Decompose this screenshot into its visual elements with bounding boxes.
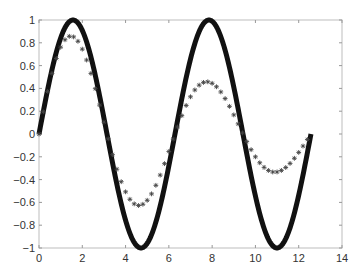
star-marker <box>197 83 202 88</box>
line-chart: 02468101214 −1−0.8−0.6−0.4−0.200.20.40.6… <box>0 0 361 274</box>
plot-area <box>37 20 311 248</box>
star-marker <box>58 45 63 50</box>
star-marker <box>283 165 288 170</box>
star-marker <box>184 103 189 108</box>
star-marker <box>179 113 184 118</box>
star-marker <box>262 165 267 170</box>
star-marker <box>253 154 258 159</box>
y-tick-label: 0.4 <box>20 82 35 94</box>
star-marker <box>45 89 50 94</box>
y-tick-label: −0.2 <box>13 151 35 163</box>
star-marker <box>257 160 262 165</box>
star-marker <box>80 47 85 52</box>
star-marker <box>37 132 42 137</box>
star-marker <box>270 170 275 175</box>
x-tick-label: 0 <box>36 252 42 264</box>
star-marker <box>145 198 150 203</box>
x-tick-label: 8 <box>209 252 215 264</box>
y-tick-label: 0.2 <box>20 105 35 117</box>
star-marker <box>110 152 115 157</box>
x-tick-label: 14 <box>336 252 348 264</box>
y-tick-label: 0 <box>29 128 35 140</box>
star-marker <box>63 37 68 42</box>
star-marker <box>106 136 111 141</box>
star-marker <box>227 104 232 109</box>
star-marker <box>128 197 133 202</box>
y-tick-label: 1 <box>29 14 35 26</box>
star-marker <box>50 71 55 76</box>
star-marker <box>175 125 180 130</box>
y-tick-label: 0.8 <box>20 37 35 49</box>
star-marker <box>97 103 102 108</box>
y-tick-label: 0.6 <box>20 60 35 72</box>
star-marker <box>162 161 167 166</box>
star-marker <box>41 109 46 114</box>
star-marker <box>123 189 128 194</box>
star-marker <box>244 139 249 144</box>
y-tick-label: −1 <box>22 242 35 254</box>
star-marker <box>296 150 301 155</box>
star-marker <box>158 173 163 178</box>
star-marker <box>89 71 94 76</box>
star-marker <box>67 34 72 39</box>
y-tick-label: −0.4 <box>13 174 35 186</box>
star-marker <box>210 81 215 86</box>
x-tick-label: 4 <box>123 252 129 264</box>
star-marker <box>305 137 310 142</box>
star-marker <box>292 156 297 161</box>
star-marker <box>71 34 76 39</box>
x-tick-label: 6 <box>166 252 172 264</box>
star-marker <box>214 84 219 89</box>
star-marker <box>54 56 59 61</box>
star-marker <box>76 39 81 44</box>
star-marker <box>153 183 158 188</box>
x-tick-label: 2 <box>79 252 85 264</box>
star-marker <box>140 202 145 207</box>
x-tick-label: 12 <box>293 252 305 264</box>
y-tick-label: −0.8 <box>13 219 35 231</box>
star-marker <box>132 201 137 206</box>
star-marker <box>301 144 306 149</box>
star-marker <box>192 88 197 93</box>
star-marker <box>119 179 124 184</box>
damped-sine-markers <box>37 34 310 208</box>
sine-line <box>39 20 311 248</box>
star-marker <box>166 149 171 154</box>
star-marker <box>84 58 89 63</box>
star-marker <box>218 90 223 95</box>
star-marker <box>266 168 271 173</box>
star-marker <box>240 130 245 135</box>
star-marker <box>93 86 98 91</box>
star-marker <box>249 147 254 152</box>
star-marker <box>149 191 154 196</box>
x-tick-label: 10 <box>249 252 261 264</box>
star-marker <box>102 120 107 125</box>
star-marker <box>171 137 176 142</box>
y-tick-label: −0.6 <box>13 196 35 208</box>
star-marker <box>231 112 236 117</box>
star-marker <box>288 161 293 166</box>
star-marker <box>205 79 210 84</box>
star-marker <box>275 170 280 175</box>
star-marker <box>236 121 241 126</box>
star-marker <box>188 94 193 99</box>
star-marker <box>223 96 228 101</box>
star-marker <box>201 80 206 85</box>
star-marker <box>136 203 141 208</box>
star-marker <box>115 167 120 172</box>
star-marker <box>279 168 284 173</box>
